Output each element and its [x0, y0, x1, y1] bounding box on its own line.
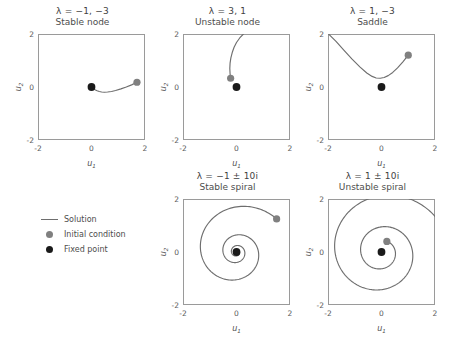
x-axis-label: u1 — [87, 159, 96, 169]
x-tick-label: 0 — [89, 144, 94, 153]
fixed-point-marker — [378, 83, 386, 91]
y-tick-label: 0 — [319, 83, 324, 92]
phase-portrait-figure: λ = −1, −3Stable node-2-20022u1u2 λ = 3,… — [0, 0, 454, 341]
x-tick-label: -2 — [34, 144, 42, 153]
panel-stable-node: λ = −1, −3Stable node-2-20022u1u2 — [10, 4, 155, 174]
x-axis-label: u1 — [232, 324, 241, 334]
x-tick-label: 2 — [288, 309, 293, 318]
panel-unstable-node: λ = 3, 1Unstable node-2-20022u1u2 — [155, 4, 300, 174]
y-tick-label: 0 — [174, 248, 179, 257]
y-tick-label: -2 — [317, 136, 325, 145]
panel-title: λ = −1 ± 10iStable spiral — [155, 171, 300, 193]
y-tick-label: 2 — [29, 30, 34, 39]
initial-condition-marker — [227, 75, 234, 82]
panel-title: λ = −1, −3Stable node — [10, 6, 155, 28]
y-axis-label: u2 — [159, 247, 169, 256]
legend-item-initial-condition: Initial condition — [38, 227, 150, 242]
classification-label: Unstable node — [155, 17, 300, 28]
plot-area: -2-20022u1u2 — [300, 28, 445, 174]
panel-title: λ = 1, −3Saddle — [300, 6, 445, 28]
classification-label: Stable node — [10, 17, 155, 28]
classification-label: Stable spiral — [155, 182, 300, 193]
y-tick-label: -2 — [317, 301, 325, 310]
legend-item-solution: Solution — [38, 212, 150, 227]
y-axis-label: u2 — [14, 82, 24, 91]
plot-area: -2-20022u1u2 — [300, 193, 445, 339]
initial-condition-marker — [383, 238, 390, 245]
x-axis-label: u1 — [377, 159, 386, 169]
legend-item-fixed-point: Fixed point — [38, 242, 150, 257]
x-tick-label: 2 — [288, 144, 293, 153]
solution-line-icon — [38, 219, 60, 220]
legend-label-fixed-point: Fixed point — [60, 245, 108, 254]
legend-label-solution: Solution — [60, 215, 97, 224]
classification-label: Saddle — [300, 17, 445, 28]
x-tick-label: -2 — [324, 144, 332, 153]
eigenvalue-label: λ = −1 ± 10i — [155, 171, 300, 182]
y-tick-label: -2 — [172, 301, 180, 310]
classification-label: Unstable spiral — [300, 182, 445, 193]
fixed-point-marker — [233, 83, 241, 91]
fixed-point-dot-icon — [38, 246, 60, 253]
panel-stable-spiral: λ = −1 ± 10iStable spiral-2-20022u1u2 — [155, 169, 300, 339]
fixed-point-marker — [378, 248, 386, 256]
x-tick-label: 0 — [234, 309, 239, 318]
x-tick-label: -2 — [179, 309, 187, 318]
panel-saddle: λ = 1, −3Saddle-2-20022u1u2 — [300, 4, 445, 174]
y-tick-label: 2 — [319, 195, 324, 204]
initial-condition-marker — [133, 79, 140, 86]
legend-label-initial-condition: Initial condition — [60, 230, 126, 239]
x-tick-label: -2 — [324, 309, 332, 318]
y-axis-label: u2 — [304, 82, 314, 91]
y-tick-label: 0 — [174, 83, 179, 92]
x-tick-label: 0 — [379, 309, 384, 318]
y-tick-label: -2 — [27, 136, 35, 145]
initial-condition-marker — [273, 215, 280, 222]
x-tick-label: 2 — [433, 144, 438, 153]
y-tick-label: -2 — [172, 136, 180, 145]
x-tick-label: -2 — [179, 144, 187, 153]
fixed-point-marker — [233, 248, 241, 256]
y-tick-label: 2 — [319, 30, 324, 39]
fixed-point-marker — [88, 83, 96, 91]
initial-condition-dot-icon — [38, 231, 60, 238]
y-tick-label: 0 — [319, 248, 324, 257]
y-axis-label: u2 — [304, 247, 314, 256]
y-axis-label: u2 — [159, 82, 169, 91]
plot-area: -2-20022u1u2 — [155, 28, 300, 174]
y-tick-label: 2 — [174, 195, 179, 204]
eigenvalue-label: λ = 1, −3 — [300, 6, 445, 17]
x-axis-label: u1 — [232, 159, 241, 169]
y-tick-label: 0 — [29, 83, 34, 92]
eigenvalue-label: λ = 3, 1 — [155, 6, 300, 17]
eigenvalue-label: λ = −1, −3 — [10, 6, 155, 17]
x-tick-label: 0 — [234, 144, 239, 153]
panel-title: λ = 3, 1Unstable node — [155, 6, 300, 28]
x-tick-label: 2 — [433, 309, 438, 318]
legend: Solution Initial condition Fixed point — [38, 212, 150, 258]
initial-condition-marker — [405, 52, 412, 59]
x-tick-label: 0 — [379, 144, 384, 153]
panel-title: λ = 1 ± 10iUnstable spiral — [300, 171, 445, 193]
x-tick-label: 2 — [143, 144, 148, 153]
plot-area: -2-20022u1u2 — [155, 193, 300, 339]
y-tick-label: 2 — [174, 30, 179, 39]
eigenvalue-label: λ = 1 ± 10i — [300, 171, 445, 182]
plot-area: -2-20022u1u2 — [10, 28, 155, 174]
panel-unstable-spiral: λ = 1 ± 10iUnstable spiral-2-20022u1u2 — [300, 169, 445, 339]
x-axis-label: u1 — [377, 324, 386, 334]
